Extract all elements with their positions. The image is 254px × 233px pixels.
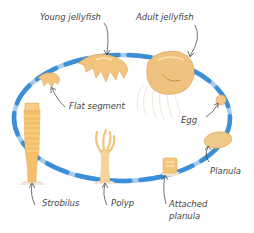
label-polyp: Polyp — [111, 199, 134, 209]
pointer-arrows — [29, 23, 218, 205]
adult-jellyfish-illustration — [137, 51, 194, 120]
label-planula: Planula — [210, 167, 241, 177]
attached-planula-illustration — [160, 158, 180, 176]
label-attached-planula-line1: Attached — [169, 200, 207, 210]
jellyfish-life-cycle-diagram: Young jellyfish Adult jellyfish Egg Plan… — [0, 0, 254, 233]
label-adult-jellyfish: Adult jellyfish — [136, 13, 194, 23]
label-young-jellyfish: Young jellyfish — [40, 13, 101, 23]
young-jellyfish-illustration — [78, 54, 128, 82]
label-flat-segment: Flat segment — [69, 102, 125, 112]
label-egg: Egg — [181, 116, 197, 126]
label-strobilus: Strobilus — [42, 199, 79, 209]
label-attached-planula-line2: planula — [169, 212, 200, 222]
polyp-illustration — [93, 130, 117, 184]
